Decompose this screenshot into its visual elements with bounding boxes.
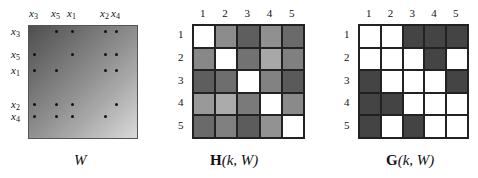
- h-cell: [260, 48, 282, 71]
- h-cell: [260, 115, 282, 138]
- g-cell: [446, 115, 468, 138]
- h-col-label: 5: [289, 8, 295, 19]
- w-edge-dot: [55, 115, 58, 118]
- w-edge-dot: [33, 53, 36, 56]
- g-row-label: 2: [344, 52, 350, 63]
- w-edge-dot: [33, 115, 36, 118]
- caption-w: W: [74, 152, 87, 168]
- g-cell: [446, 48, 468, 71]
- g-matrix: [358, 24, 469, 139]
- g-cell: [381, 115, 403, 138]
- g-cell: [381, 48, 403, 71]
- w-col-label: x1: [67, 8, 76, 22]
- h-cell: [193, 25, 215, 48]
- h-row-label: 2: [178, 52, 184, 63]
- h-cell: [193, 115, 215, 138]
- w-edge-dot: [104, 30, 107, 33]
- g-col-label: 5: [453, 8, 459, 19]
- g-cell: [446, 70, 468, 93]
- h-cell: [237, 115, 259, 138]
- h-cell: [282, 48, 304, 71]
- h-cell: [237, 25, 259, 48]
- w-edge-dot: [55, 30, 58, 33]
- g-cell: [446, 93, 468, 116]
- h-cell: [282, 25, 304, 48]
- h-cell: [193, 93, 215, 116]
- g-row-label: 5: [344, 120, 350, 131]
- w-edge-dot: [71, 53, 74, 56]
- g-cell: [403, 25, 425, 48]
- h-cell: [282, 70, 304, 93]
- h-cell: [215, 115, 237, 138]
- w-edge-dot: [55, 103, 58, 106]
- h-matrix: [192, 24, 305, 139]
- g-cell: [359, 48, 381, 71]
- g-cell: [403, 70, 425, 93]
- g-col-label: 4: [431, 8, 437, 19]
- h-row-label: 1: [178, 29, 184, 40]
- h-row-label: 5: [178, 120, 184, 131]
- w-edge-dot: [55, 69, 58, 72]
- h-row-label: 4: [178, 97, 184, 108]
- g-col-label: 3: [410, 8, 416, 19]
- h-cell: [260, 93, 282, 116]
- w-edge-dot: [104, 69, 107, 72]
- w-col-label: x5: [51, 8, 60, 22]
- h-col-label: 3: [245, 8, 251, 19]
- h-cell: [260, 25, 282, 48]
- g-cell: [381, 70, 403, 93]
- g-cell: [403, 48, 425, 71]
- g-cell: [424, 93, 446, 116]
- w-row-label: x1: [11, 65, 20, 79]
- w-edge-dot: [33, 103, 36, 106]
- h-col-label: 1: [200, 8, 206, 19]
- h-col-label: 4: [267, 8, 273, 19]
- w-matrix-gradient: [28, 25, 138, 139]
- w-edge-dot: [33, 69, 36, 72]
- h-cell: [215, 70, 237, 93]
- h-cell: [282, 93, 304, 116]
- w-col-label: x2: [100, 8, 109, 22]
- w-edge-dot: [115, 53, 118, 56]
- caption-h-args: (k, W): [222, 152, 259, 168]
- g-cell: [359, 93, 381, 116]
- g-cell: [381, 25, 403, 48]
- w-row-label: x4: [11, 111, 20, 125]
- g-row-label: 4: [344, 97, 350, 108]
- w-edge-dot: [71, 30, 74, 33]
- caption-h: H(k, W): [210, 152, 258, 168]
- g-cell: [424, 70, 446, 93]
- w-edge-dot: [71, 115, 74, 118]
- g-col-label: 1: [366, 8, 372, 19]
- h-col-label: 2: [222, 8, 228, 19]
- caption-g: G(k, W): [386, 152, 434, 168]
- g-cell: [359, 25, 381, 48]
- g-cell: [359, 115, 381, 138]
- caption-g-args: (k, W): [398, 152, 435, 168]
- h-cell: [237, 93, 259, 116]
- h-cell: [237, 48, 259, 71]
- h-row-label: 3: [178, 75, 184, 86]
- caption-h-symbol: H: [210, 152, 222, 168]
- w-edge-dot: [115, 103, 118, 106]
- h-cell: [282, 115, 304, 138]
- h-cell: [215, 25, 237, 48]
- w-row-label: x3: [11, 26, 20, 40]
- g-cell: [424, 48, 446, 71]
- g-cell: [424, 25, 446, 48]
- g-row-label: 3: [344, 75, 350, 86]
- caption-g-symbol: G: [386, 152, 398, 168]
- h-cell: [193, 48, 215, 71]
- g-cell: [381, 93, 403, 116]
- g-cell: [424, 115, 446, 138]
- w-edge-dot: [71, 103, 74, 106]
- h-cell: [215, 93, 237, 116]
- g-row-label: 1: [344, 29, 350, 40]
- w-col-label: x4: [111, 8, 120, 22]
- w-edge-dot: [115, 30, 118, 33]
- w-row-label: x5: [11, 49, 20, 63]
- g-cell: [403, 93, 425, 116]
- g-col-label: 2: [388, 8, 394, 19]
- g-cell: [403, 115, 425, 138]
- w-col-label: x3: [29, 8, 38, 22]
